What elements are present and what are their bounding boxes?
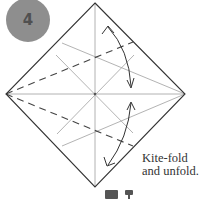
flip-symbol-icon — [125, 190, 133, 199]
caption-line-1: Kite-fold — [142, 152, 199, 165]
fold-unfold-arrow-lower — [104, 102, 135, 166]
center-point — [94, 93, 97, 96]
valley-fold-legend-icon — [105, 190, 118, 199]
step-number: 4 — [6, 0, 50, 42]
instruction-caption: Kite-fold and unfold. — [142, 152, 199, 177]
caption-line-2: and unfold. — [142, 165, 199, 178]
fold-unfold-arrow-upper — [102, 26, 134, 88]
step-number-badge: 4 — [6, 0, 50, 42]
